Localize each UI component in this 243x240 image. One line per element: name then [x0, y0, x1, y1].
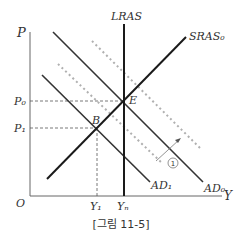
dotted-ad-upper	[92, 41, 202, 150]
lras-label: LRAS	[110, 10, 143, 23]
ad1-label: AD₁	[150, 179, 172, 192]
point-e-label: E	[128, 94, 137, 107]
point-b-label: B	[91, 114, 100, 127]
p1-tick-label: P₁	[13, 122, 26, 135]
origin-label: O	[16, 197, 25, 210]
x-axis-label: Y	[224, 189, 233, 203]
sras0-curve	[47, 37, 186, 179]
figure-caption: [그림 11-5]	[92, 218, 149, 231]
y1-tick-label: Y₁	[90, 200, 102, 213]
ad0-label: AD₀	[203, 182, 226, 195]
shift-marker: 1	[171, 160, 175, 168]
yn-tick-label: Yₙ	[117, 200, 129, 213]
shift-arrow	[156, 139, 180, 161]
y-axis-label: P	[16, 25, 26, 40]
p0-tick-label: P₀	[13, 95, 26, 108]
sras0-label: SRAS₀	[189, 30, 225, 43]
ad-as-diagram: 1 P Y O LRAS SRAS₀ AD₀ AD₁ E B P₀ P₁ Y₁ …	[0, 0, 243, 240]
